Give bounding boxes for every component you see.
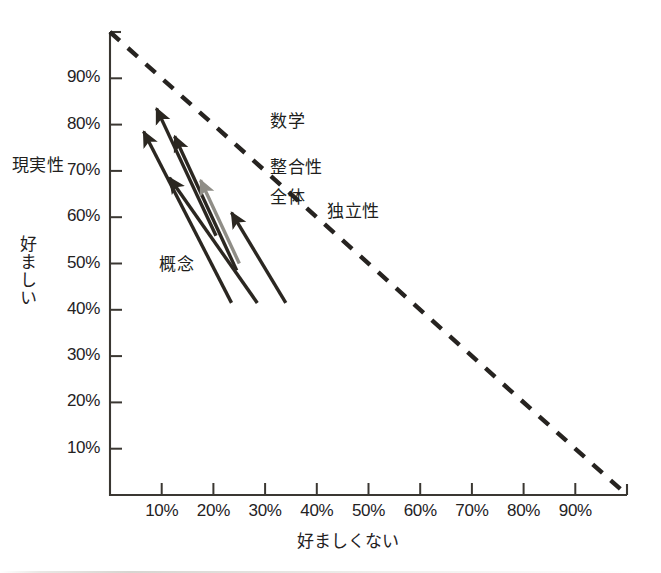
series-label-concept: 概念: [159, 250, 194, 275]
y-tick-label: 10%: [38, 438, 100, 458]
chart-figure: 10%20%30%40%50%60%70%80%90% 10%20%30%40%…: [0, 0, 661, 573]
series-label-independence: 独立性: [327, 197, 380, 222]
series-label-reality: 現実性: [12, 151, 65, 176]
y-tick-label: 30%: [38, 345, 100, 365]
x-axis-title: 好ましくない: [297, 527, 399, 552]
series-label-consistency: 整合性: [270, 153, 323, 178]
y-tick-label: 80%: [38, 114, 100, 134]
y-axis-title: 好ましい: [14, 235, 39, 307]
y-tick-label: 60%: [38, 206, 100, 226]
x-axis-ticks: [162, 483, 576, 495]
y-tick-label: 40%: [38, 299, 100, 319]
y-tick-label: 20%: [38, 391, 100, 411]
y-tick-label: 50%: [38, 253, 100, 273]
arrow-concept: [170, 178, 258, 303]
series-label-mathematics: 数学: [270, 107, 305, 132]
arrow-independence: [232, 213, 286, 303]
y-axis-ticks: [110, 78, 122, 448]
x-tick-label: 90%: [545, 501, 605, 521]
y-tick-label: 90%: [38, 67, 100, 87]
series-label-whole: 全体: [270, 183, 305, 208]
